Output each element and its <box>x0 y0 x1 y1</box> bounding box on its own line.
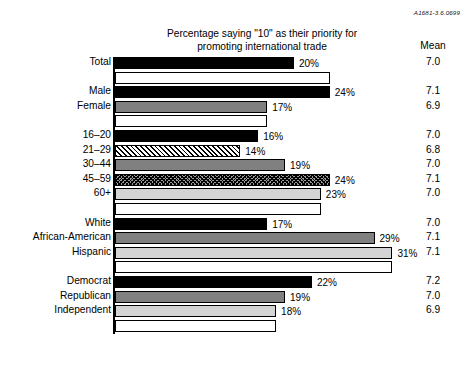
mean-value: 6.8 <box>404 144 462 155</box>
bar-row: 24% <box>115 174 390 186</box>
bar-hispanic <box>115 247 392 259</box>
mean-value: 6.9 <box>404 100 462 111</box>
bar-value-label: 20% <box>299 58 319 69</box>
spacer-bar-fill <box>115 261 392 273</box>
category-label: White <box>0 217 111 228</box>
category-label: 30–44 <box>0 158 111 169</box>
bar-independent <box>115 305 276 317</box>
bar-republican <box>115 291 285 303</box>
spacer-bar-fill <box>115 203 321 215</box>
category-label: Republican <box>0 290 111 301</box>
category-label: Democrat <box>0 275 111 286</box>
group-spacer-bar <box>115 115 267 127</box>
chart-title: Percentage saying "10" as their priority… <box>118 27 406 53</box>
group-spacer-bar <box>115 261 392 273</box>
mean-column-header: Mean <box>404 40 462 51</box>
mean-value: 7.1 <box>404 173 462 184</box>
bar-row: 18% <box>115 305 336 317</box>
figure-code-label: A1681-3.6.0699 <box>414 9 460 16</box>
category-label: Male <box>0 85 111 96</box>
category-label: 45–59 <box>0 173 111 184</box>
bar-row: 17% <box>115 218 327 230</box>
bar-row: 14% <box>115 145 300 157</box>
bar-16-20 <box>115 130 258 142</box>
bar-value-label: 14% <box>245 145 265 156</box>
category-label: African-American <box>0 231 111 242</box>
bar-row: 24% <box>115 86 390 98</box>
category-label: 60+ <box>0 187 111 198</box>
bar-value-label: 24% <box>335 174 355 185</box>
bar-row: 17% <box>115 101 327 113</box>
mean-value: 7.0 <box>404 187 462 198</box>
bottom-spacer-bar <box>115 320 276 332</box>
category-label: Female <box>0 100 111 111</box>
bar-row: 23% <box>115 188 381 200</box>
category-label: Total <box>0 56 111 67</box>
bar-30-44 <box>115 159 285 171</box>
category-label-column: TotalMaleFemale16–2021–2930–4445–5960+Wh… <box>0 57 111 346</box>
bar-white <box>115 218 267 230</box>
spacer-bar-fill <box>115 115 267 127</box>
mean-value: 7.0 <box>404 56 462 67</box>
bar-value-label: 29% <box>380 233 400 244</box>
bar-value-label: 17% <box>272 101 292 112</box>
mean-value: 7.0 <box>404 158 462 169</box>
spacer-bar-fill <box>115 72 330 84</box>
bar-value-label: 23% <box>326 189 346 200</box>
group-spacer-bar <box>115 72 330 84</box>
category-label: Hispanic <box>0 246 111 257</box>
mean-value: 7.0 <box>404 129 462 140</box>
bar-total <box>115 57 294 69</box>
bar-row: 19% <box>115 159 345 171</box>
mean-value: 7.1 <box>404 246 462 257</box>
plot-area: 20%24%17%16%14%19%24%23%17%29%31%22%19%1… <box>113 57 413 346</box>
bar-value-label: 19% <box>290 291 310 302</box>
category-label: 16–20 <box>0 129 111 140</box>
mean-value: 7.1 <box>404 85 462 96</box>
bar-value-label: 19% <box>290 160 310 171</box>
mean-value: 7.1 <box>404 231 462 242</box>
bar-value-label: 17% <box>272 218 292 229</box>
mean-value: 7.0 <box>404 217 462 228</box>
mean-value-column: 7.07.16.97.06.87.07.17.07.07.17.17.27.06… <box>404 57 462 346</box>
mean-value: 6.9 <box>404 304 462 315</box>
bar-african-american <box>115 232 375 244</box>
bar-45-59 <box>115 174 330 186</box>
bar-row: 16% <box>115 130 318 142</box>
category-label: 21–29 <box>0 144 111 155</box>
bar-value-label: 22% <box>317 277 337 288</box>
bar-row: 31% <box>115 247 452 259</box>
bar-male <box>115 86 330 98</box>
chart-title-line-2: promoting international trade <box>118 40 406 53</box>
bar-democrat <box>115 276 312 288</box>
chart-title-line-1: Percentage saying "10" as their priority… <box>118 27 406 40</box>
bar-value-label: 16% <box>263 131 283 142</box>
bar-row: 29% <box>115 232 435 244</box>
mean-value: 7.2 <box>404 275 462 286</box>
bar-value-label: 24% <box>335 87 355 98</box>
bar-60 <box>115 188 321 200</box>
category-label: Independent <box>0 304 111 315</box>
bar-21-29 <box>115 145 240 157</box>
spacer-bar-fill <box>115 320 276 332</box>
bar-row: 22% <box>115 276 372 288</box>
bar-female <box>115 101 267 113</box>
bar-row: 19% <box>115 291 345 303</box>
chart-container: A1681-3.6.0699 Percentage saying "10" as… <box>0 0 467 367</box>
bar-value-label: 18% <box>281 306 301 317</box>
bar-row: 20% <box>115 57 354 69</box>
group-spacer-bar <box>115 203 321 215</box>
mean-value: 7.0 <box>404 290 462 301</box>
